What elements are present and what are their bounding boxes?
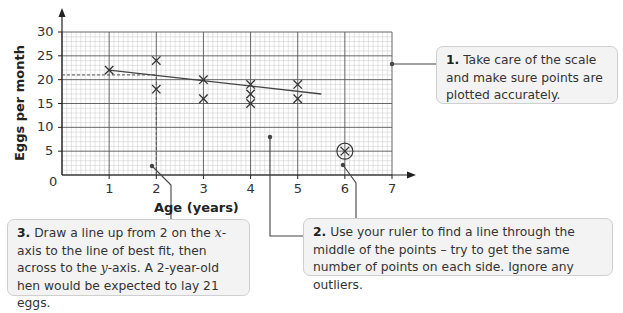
y-variable: y (101, 261, 108, 275)
y-tick-label: 20 (37, 72, 54, 87)
x-axis-arrow-icon (407, 172, 416, 179)
callout-text: Take care of the scale and make sure poi… (446, 53, 603, 102)
callout-best-fit-tip: 2. Use your ruler to find a line through… (303, 218, 613, 276)
callout-number: 2. (313, 225, 326, 239)
y-axis-arrow-icon (59, 8, 66, 17)
x-variable: x (215, 226, 222, 240)
y-tick-label: 30 (37, 24, 54, 39)
line-of-best-fit (109, 70, 321, 94)
y-tick-label: 10 (37, 119, 54, 134)
x-axis-title: Age (years) (154, 200, 239, 215)
y-tick-label: 15 (37, 96, 54, 111)
x-tick-label: 5 (294, 181, 302, 196)
x-tick-label: 2 (152, 181, 160, 196)
y-tick-label: 5 (45, 143, 53, 158)
x-tick-label: 1 (105, 181, 113, 196)
callout-scale-tip: 1. Take care of the scale and make sure … (436, 46, 618, 104)
x-tick-label: 7 (388, 181, 396, 196)
callout-number: 3. (17, 226, 30, 240)
callout-number: 1. (446, 53, 459, 67)
axes (58, 8, 416, 179)
y-axis-title: Eggs per month (12, 45, 27, 161)
y-tick-label: 25 (37, 48, 54, 63)
callout-reading-tip: 3. Draw a line up from 2 on the x-axis t… (7, 219, 250, 296)
x-tick-label: 4 (247, 181, 255, 196)
x-tick-label: 6 (341, 181, 349, 196)
callout-text: Draw a line up from 2 on the (30, 226, 215, 240)
x-tick-label: 3 (199, 181, 207, 196)
origin-label: 0 (49, 174, 57, 189)
